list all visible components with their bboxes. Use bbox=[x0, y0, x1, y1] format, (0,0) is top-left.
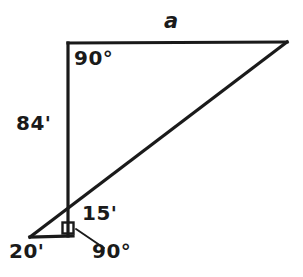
figure-line-art bbox=[0, 0, 303, 277]
label-top-side: a bbox=[164, 11, 178, 32]
bottom-side-line bbox=[30, 236, 73, 237]
label-left-side: 84' bbox=[16, 113, 51, 133]
top-side-line bbox=[68, 42, 287, 43]
label-bottom-angle: 90° bbox=[92, 241, 131, 261]
label-top-angle: 90° bbox=[74, 48, 113, 68]
geometry-figure: a 90° 84' 15' 20' 90° bbox=[0, 0, 303, 277]
label-bottom-side: 20' bbox=[9, 241, 44, 261]
label-inner-segment: 15' bbox=[82, 203, 117, 223]
